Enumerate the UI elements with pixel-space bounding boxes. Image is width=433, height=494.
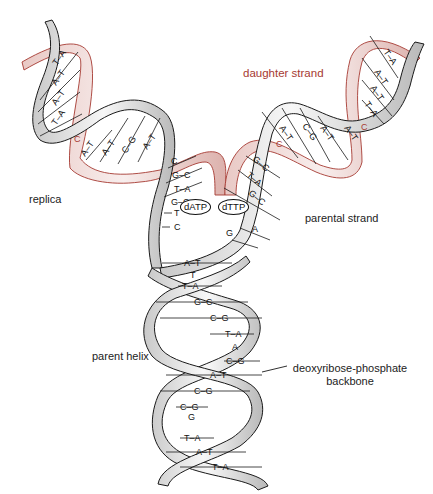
base-pair: C–G (210, 313, 229, 323)
fork-base: C (174, 222, 181, 232)
base-pair: T–A (182, 281, 199, 291)
fork-base-pair: T–A (174, 184, 191, 194)
fork-base: T (174, 208, 180, 218)
parent-helix-label: parent helix (92, 351, 149, 362)
fork-base-pair: G–C (172, 170, 191, 180)
backbone-label-line2: backbone (288, 375, 412, 388)
base-pair: A–T (210, 370, 227, 380)
base-pair: G–C (194, 297, 213, 307)
backbone-label: deoxyribose-phosphate backbone (288, 362, 412, 388)
base-pair: C–G (180, 402, 199, 412)
base-pair: A–T (184, 258, 201, 268)
base-pair: C–G (300, 121, 319, 142)
parental-strand-label: parental strand (305, 213, 378, 224)
base-pair: C–G (226, 356, 245, 366)
new-base: C (74, 134, 81, 144)
base-pair: A–T (140, 131, 158, 151)
daughter-strand-label: daughter strand (243, 68, 324, 80)
replica-label: replica (29, 194, 61, 205)
base: G (188, 412, 195, 422)
free-nucleotide-datp: dATP (180, 199, 211, 215)
fork-base: C (171, 156, 178, 166)
base-pair: C–G (194, 386, 213, 396)
fork-base: A (252, 224, 258, 234)
fork-base: G (226, 228, 233, 238)
base-pair: T–A (212, 462, 229, 472)
base-pair: A–T (99, 137, 117, 157)
backbone-leader-line (262, 366, 287, 372)
base-pair: T–A (225, 329, 242, 339)
base-pair: C–G (119, 134, 138, 155)
base-pair: T–A (49, 108, 67, 127)
free-nucleotide-dttp: dTTP (218, 199, 249, 215)
base-pair: A–T (49, 87, 67, 107)
base: T (190, 270, 196, 280)
base: A (232, 342, 238, 352)
left-replica-helix: T–A A–T A–T T–A C A–T A–T C–G A–T (22, 20, 226, 268)
parent-helix: A–T T T–A G–C C–G T–A A C–G A–T C–G C–G … (144, 256, 287, 490)
base-pair: A–T (196, 447, 213, 457)
backbone-label-line1: deoxyribose-phosphate (288, 362, 412, 375)
base-pair: T–A (184, 433, 201, 443)
new-base: C (276, 139, 283, 149)
new-base: C (361, 122, 368, 132)
dna-replication-diagram: T–A A–T A–T T–A C A–T A–T C–G A–T T–A A–… (0, 0, 433, 494)
